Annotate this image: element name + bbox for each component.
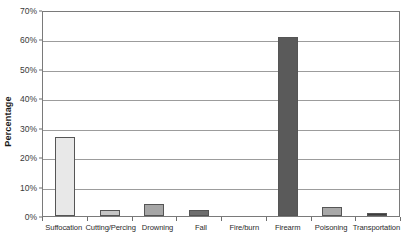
x-tick-label: Suffocation xyxy=(42,223,85,232)
x-tick-mark xyxy=(42,217,43,221)
bar-slot xyxy=(355,12,400,216)
bar-slot xyxy=(221,12,266,216)
y-tick-label: 40% xyxy=(20,94,37,104)
bar-poisoning[interactable] xyxy=(322,207,342,216)
x-tick-mark xyxy=(400,217,401,221)
x-tick-label: Transportation xyxy=(353,223,400,232)
x-tick-label: Firearm xyxy=(266,223,309,232)
x-tick-label: Poisoning xyxy=(309,223,352,232)
x-tick-mark xyxy=(266,217,267,221)
x-tick-mark xyxy=(355,217,356,221)
bar-transportation[interactable] xyxy=(367,213,387,216)
bar-chart: Percentage 0%10%20%30%40%50%60%70% Suffo… xyxy=(0,0,409,243)
y-tick-label: 30% xyxy=(20,124,37,134)
bar-suffocation[interactable] xyxy=(55,137,75,216)
x-tick-label: Fall xyxy=(179,223,222,232)
x-axis-tick-labels: SuffocationCutting/PercingDrowningFallFi… xyxy=(42,223,400,232)
x-tick-label: Cutting/Percing xyxy=(85,223,135,232)
bar-drowning[interactable] xyxy=(144,204,164,216)
bar-slot xyxy=(266,12,311,216)
bar-slot xyxy=(88,12,133,216)
bar-slot xyxy=(43,12,88,216)
x-axis-tick-marks xyxy=(42,217,400,221)
y-tick-label: 60% xyxy=(20,35,37,45)
x-tick-mark xyxy=(221,217,222,221)
x-tick-label: Drowning xyxy=(136,223,179,232)
x-tick-mark xyxy=(176,217,177,221)
bars-container xyxy=(43,12,399,216)
y-tick-label: 70% xyxy=(20,6,37,16)
bar-cutting-percing[interactable] xyxy=(100,210,120,216)
x-tick-label: Fire/burn xyxy=(223,223,266,232)
bar-fall[interactable] xyxy=(189,210,209,216)
bar-slot xyxy=(310,12,355,216)
bar-firearm[interactable] xyxy=(278,37,298,217)
y-tick-label: 10% xyxy=(20,183,37,193)
y-tick-label: 50% xyxy=(20,65,37,75)
x-tick-mark xyxy=(311,217,312,221)
plot-area xyxy=(42,11,400,217)
x-tick-mark xyxy=(132,217,133,221)
bar-slot xyxy=(177,12,222,216)
bar-slot xyxy=(132,12,177,216)
y-tick-label: 0% xyxy=(25,212,37,222)
y-axis-tick-labels: 0%10%20%30%40%50%60%70% xyxy=(0,11,42,217)
x-tick-mark xyxy=(87,217,88,221)
y-tick-label: 20% xyxy=(20,153,37,163)
